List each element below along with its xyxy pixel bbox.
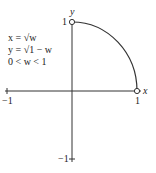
curve xyxy=(72,22,137,91)
tick-label-y-1: 1 xyxy=(62,16,67,27)
equation-x: x = √w xyxy=(8,32,37,43)
endpoint-top xyxy=(69,19,74,24)
equation-y: y = √1 − w xyxy=(8,44,53,55)
y-axis-label: y xyxy=(69,6,75,17)
tick-label-x-1: 1 xyxy=(135,95,140,106)
x-axis-label: x xyxy=(142,85,148,96)
endpoint-right xyxy=(134,88,139,93)
parameter-range: 0 < w < 1 xyxy=(8,56,47,67)
tick-label-y-neg1: −1 xyxy=(58,153,69,164)
tick-label-x-neg1: −1 xyxy=(2,95,13,106)
parametric-plot: y x −1 1 1 −1 x = √w y = √1 − w 0 < w < … xyxy=(0,0,156,173)
